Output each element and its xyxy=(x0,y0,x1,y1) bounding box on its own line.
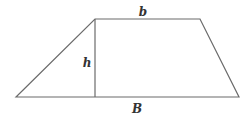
trapezoid-shape xyxy=(16,19,239,97)
top-base-label: b xyxy=(139,6,147,18)
trapezoid-figure xyxy=(0,0,250,117)
height-label: h xyxy=(83,57,92,69)
bottom-base-label: B xyxy=(132,103,142,115)
